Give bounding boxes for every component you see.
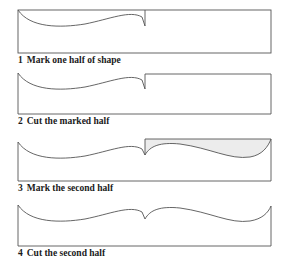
cut-curve <box>18 142 145 158</box>
step-number: 3 <box>18 183 23 193</box>
step-label: Cut the marked half <box>27 116 110 126</box>
step-1-caption: 1Mark one half of shape <box>18 55 121 65</box>
marked-curve <box>18 10 145 26</box>
panel-4-cut-second-half <box>18 205 271 246</box>
panel-2-cut-marked-half <box>18 73 271 114</box>
paper-outline <box>18 10 271 53</box>
step-label: Mark one half of shape <box>27 55 121 65</box>
step-3-caption: 3Mark the second half <box>18 183 113 193</box>
step-4-caption: 4Cut the second half <box>18 248 105 258</box>
step-number: 2 <box>18 116 23 126</box>
shaded-mark-area <box>145 139 271 157</box>
diagram-canvas <box>0 0 288 265</box>
step-label: Mark the second half <box>27 183 113 193</box>
finished-shape <box>18 205 271 246</box>
step-2-caption: 2Cut the marked half <box>18 116 109 126</box>
paper-outline <box>18 73 271 114</box>
panel-3-mark-second-half <box>18 139 271 181</box>
step-number: 4 <box>18 248 23 258</box>
panel-1-mark-one-half <box>18 10 271 53</box>
step-label: Cut the second half <box>27 248 105 258</box>
cut-curve <box>18 73 145 89</box>
step-number: 1 <box>18 55 23 65</box>
